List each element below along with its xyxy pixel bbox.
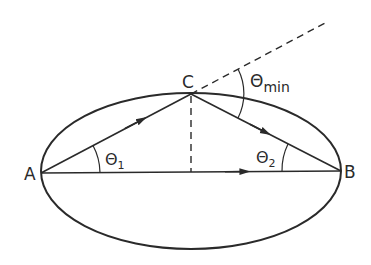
angle-label-theta-min: Θmin [250, 71, 290, 95]
ellipse-path-diagram: A B C Θ1 Θ2 Θmin [0, 0, 371, 265]
segment-a-b [41, 171, 341, 173]
point-label-c: C [182, 72, 194, 92]
arrow-a-c [125, 120, 142, 129]
point-label-a: A [24, 164, 36, 184]
angle-arc-theta-min [238, 69, 244, 118]
point-label-b: B [344, 162, 356, 182]
angle-arc-theta2 [282, 144, 288, 172]
angle-arc-theta1 [93, 146, 100, 173]
arrow-c-b [250, 124, 266, 132]
angle-label-theta2: Θ2 [256, 148, 276, 170]
angle-label-theta1: Θ1 [105, 150, 125, 172]
